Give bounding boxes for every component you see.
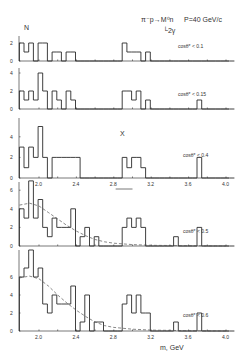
y-tick-label: 6 xyxy=(10,187,13,193)
decay-label: └2γ xyxy=(163,26,176,35)
x-tick-label: 2.8 xyxy=(110,334,117,340)
x-tick-label: 2.0 xyxy=(35,181,42,187)
y-tick-label: 0 xyxy=(10,243,13,249)
y-tick-label: 2 xyxy=(10,310,13,316)
histogram-steps xyxy=(19,250,234,331)
y-tick-label: 4 xyxy=(10,206,13,212)
y-tick-label: 2 xyxy=(10,88,13,94)
panel-cut-label: cosθ* < 0.4 xyxy=(183,152,208,158)
beam-momentum-label: P=40 GeV/c xyxy=(184,16,222,23)
peak-marker-label: X xyxy=(120,130,125,137)
x-tick-label: 2.0 xyxy=(35,334,42,340)
y-tick-label: 0 xyxy=(10,175,13,181)
panel-cut-label: cosθ* < 0.6 xyxy=(183,312,208,318)
y-tick-label: 4 xyxy=(10,70,13,76)
x-tick-label: 4.0 xyxy=(222,181,229,187)
x-tick-label: 2.4 xyxy=(72,181,79,187)
y-axis-label: N xyxy=(24,24,29,31)
x-tick-label: 3.2 xyxy=(147,334,154,340)
y-tick-label: 0 xyxy=(10,106,13,112)
histogram-panel: 024cosθ* < 0.42.02.42.83.23.64.0 xyxy=(10,118,234,187)
y-tick-label: 2 xyxy=(10,224,13,230)
histogram-steps xyxy=(19,181,234,246)
histogram-panel: 0246cosθ* < 0.5 xyxy=(10,181,234,249)
reaction-label: π⁻p→M⁰n xyxy=(141,16,174,24)
panel-cut-label: cosθ* < 0.15 xyxy=(178,91,206,97)
y-tick-label: 6 xyxy=(10,274,13,280)
x-tick-label: 3.6 xyxy=(185,181,192,187)
panel-cut-label: cosθ* < 0.5 xyxy=(183,228,208,234)
background-fit-curve xyxy=(19,203,226,246)
histogram-panel: 0246cosθ* < 0.62.02.42.83.23.64.0 xyxy=(10,250,234,340)
x-tick-label: 3.2 xyxy=(147,181,154,187)
y-tick-label: 2 xyxy=(10,40,13,46)
histogram-figure: N π⁻p→M⁰n └2γ P=40 GeV/c X m, GeV 02cosθ… xyxy=(0,0,246,362)
y-tick-label: 0 xyxy=(10,58,13,64)
y-tick-label: 4 xyxy=(10,292,13,298)
x-tick-label: 4.0 xyxy=(222,334,229,340)
y-tick-label: 2 xyxy=(10,154,13,160)
x-tick-label: 3.6 xyxy=(185,334,192,340)
figure: N π⁻p→M⁰n └2γ P=40 GeV/c X m, GeV 02cosθ… xyxy=(0,0,246,362)
y-tick-label: 0 xyxy=(10,328,13,334)
y-tick-label: 4 xyxy=(10,134,13,140)
panel-cut-label: cosθ* < 0.1 xyxy=(178,43,203,49)
histogram-panel: 024cosθ* < 0.15 xyxy=(10,68,234,112)
x-tick-label: 2.8 xyxy=(110,181,117,187)
panels-group: 02cosθ* < 0.1024cosθ* < 0.15024cosθ* < 0… xyxy=(10,36,234,340)
x-tick-label: 2.4 xyxy=(72,334,79,340)
x-axis-label: m, GeV xyxy=(160,344,184,351)
histogram-panel: 02cosθ* < 0.1 xyxy=(10,36,234,64)
